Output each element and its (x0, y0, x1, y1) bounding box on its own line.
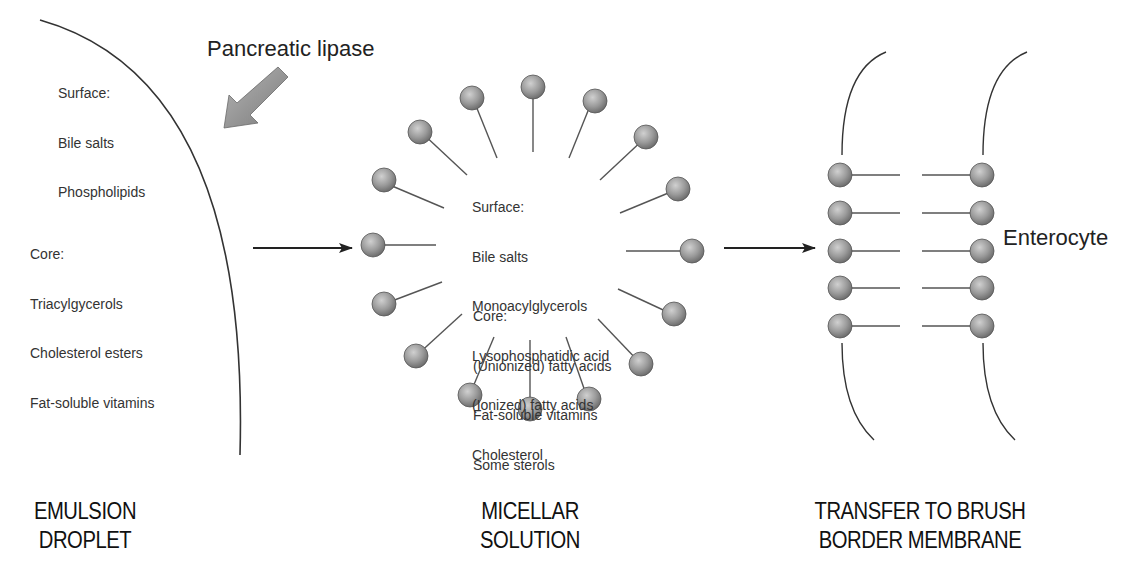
caption-line: SOLUTION (442, 526, 618, 555)
brush-border-membrane (842, 52, 1027, 440)
emulsion-core-label: Core: (30, 246, 155, 263)
emulsion-core-item: Cholesterol esters (30, 345, 155, 362)
emulsion-surface-text: Surface: Bile salts Phospholipids (58, 52, 145, 217)
micelle-core-item: Fat-soluble vitamins (473, 407, 612, 424)
caption-line: DROPLET (10, 526, 160, 555)
micelle-core-text: Core: (Unionized) fatty acids Fat-solubl… (473, 275, 612, 490)
caption-line: BORDER MEMBRANE (770, 526, 1069, 555)
pancreatic-lipase-label: Pancreatic lipase (207, 36, 375, 62)
micelle-core-item: (Unionized) fatty acids (473, 358, 612, 375)
emulsion-surface-item: Phospholipids (58, 184, 145, 201)
membrane-lipid-tails (840, 175, 982, 326)
micelle-core-item: Some sterols (473, 457, 612, 474)
emulsion-surface-item: Bile salts (58, 135, 145, 152)
emulsion-core-item: Fat-soluble vitamins (30, 395, 155, 412)
micelle-core-label: Core: (473, 308, 612, 325)
emulsion-core-text: Core: Triacylgycerols Cholesterol esters… (30, 213, 155, 428)
caption-emulsion-droplet: EMULSION DROPLET (10, 497, 160, 555)
emulsion-surface-label: Surface: (58, 85, 145, 102)
micelle-surface-item: Bile salts (472, 249, 609, 266)
caption-line: MICELLAR (442, 497, 618, 526)
caption-line: EMULSION (10, 497, 160, 526)
caption-transfer-brush-border: TRANSFER TO BRUSH BORDER MEMBRANE (770, 497, 1069, 555)
micelle-surface-label: Surface: (472, 199, 609, 216)
caption-line: TRANSFER TO BRUSH (770, 497, 1069, 526)
emulsion-core-item: Triacylgycerols (30, 296, 155, 313)
caption-micellar-solution: MICELLAR SOLUTION (442, 497, 618, 555)
enterocyte-label: Enterocyte (1003, 225, 1108, 251)
lipase-arrow-icon (224, 67, 288, 128)
